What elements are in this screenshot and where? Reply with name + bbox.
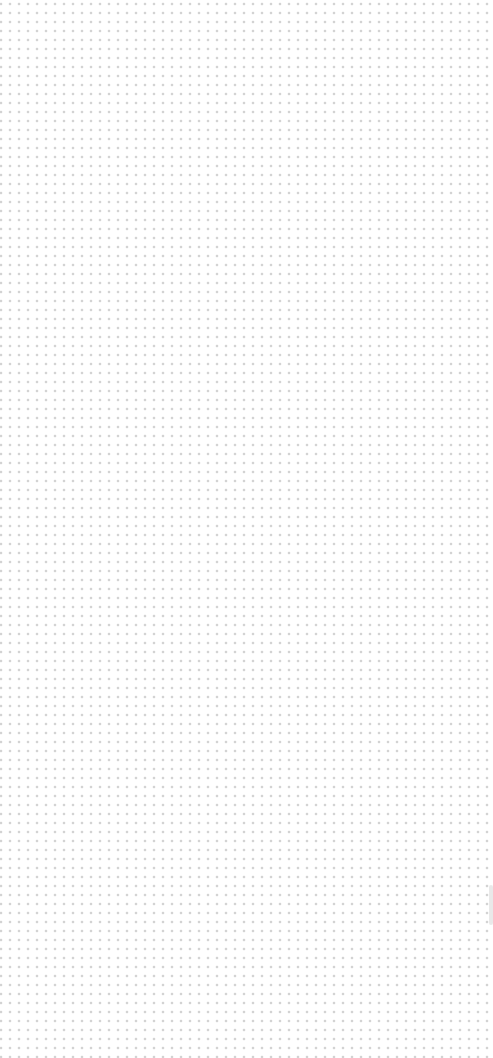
dot-grid-canvas[interactable] — [0, 0, 493, 1058]
vertical-scrollbar-thumb[interactable] — [489, 885, 493, 925]
